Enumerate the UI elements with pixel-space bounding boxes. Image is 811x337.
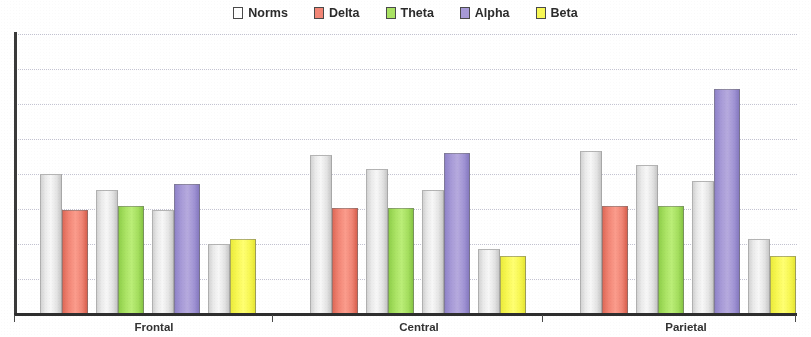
category-tick <box>795 315 796 322</box>
bar-norms <box>580 151 602 313</box>
legend-swatch-beta <box>536 7 546 19</box>
bar-delta <box>602 206 628 313</box>
bar-theta <box>658 206 684 313</box>
bar-norms <box>40 174 62 313</box>
legend-item-theta[interactable]: Theta <box>386 4 434 22</box>
category-tick <box>272 315 273 322</box>
bar-delta <box>62 210 88 313</box>
bar-norms <box>748 239 770 313</box>
bar-beta <box>230 239 256 313</box>
legend-item-alpha[interactable]: Alpha <box>460 4 510 22</box>
bar-beta <box>770 256 796 313</box>
chart-legend: Norms Delta Theta Alpha Beta <box>0 2 811 24</box>
bar-norms <box>636 165 658 313</box>
legend-swatch-theta <box>386 7 396 19</box>
bar-series-container <box>14 32 797 313</box>
bar-theta <box>388 208 414 313</box>
category-axis: FrontalCentralParietal <box>14 315 797 337</box>
legend-label-theta: Theta <box>401 7 434 19</box>
legend-label-alpha: Alpha <box>475 7 510 19</box>
bar-norms <box>208 244 230 313</box>
bar-alpha <box>174 184 200 313</box>
category-label-parietal: Parietal <box>665 321 707 333</box>
category-label-frontal: Frontal <box>135 321 174 333</box>
category-label-central: Central <box>399 321 439 333</box>
legend-label-beta: Beta <box>551 7 578 19</box>
bar-chart: Norms Delta Theta Alpha Beta FrontalCent… <box>0 0 811 337</box>
legend-item-beta[interactable]: Beta <box>536 4 578 22</box>
category-tick <box>14 315 15 322</box>
legend-item-norms[interactable]: Norms <box>233 4 288 22</box>
bar-beta <box>500 256 526 313</box>
bar-norms <box>152 210 174 313</box>
bar-theta <box>118 206 144 313</box>
bar-norms <box>478 249 500 313</box>
category-tick <box>542 315 543 322</box>
plot-area <box>14 32 797 315</box>
bar-norms <box>96 190 118 313</box>
legend-item-delta[interactable]: Delta <box>314 4 360 22</box>
legend-swatch-delta <box>314 7 324 19</box>
bar-norms <box>422 190 444 313</box>
bar-alpha <box>714 89 740 313</box>
bar-alpha <box>444 153 470 313</box>
bar-delta <box>332 208 358 313</box>
bar-norms <box>310 155 332 313</box>
legend-label-delta: Delta <box>329 7 360 19</box>
legend-label-norms: Norms <box>248 7 288 19</box>
legend-swatch-norms <box>233 7 243 19</box>
bar-norms <box>366 169 388 313</box>
bar-norms <box>692 181 714 313</box>
legend-swatch-alpha <box>460 7 470 19</box>
